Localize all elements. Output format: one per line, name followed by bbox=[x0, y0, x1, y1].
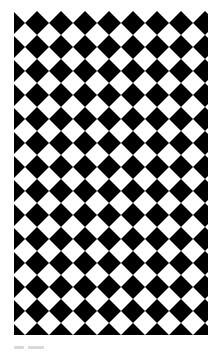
caption-word bbox=[28, 346, 44, 349]
image-caption bbox=[14, 345, 50, 350]
checkerboard-image bbox=[14, 11, 208, 335]
caption-word bbox=[14, 346, 24, 349]
diamond-pattern-graphic bbox=[14, 11, 208, 335]
